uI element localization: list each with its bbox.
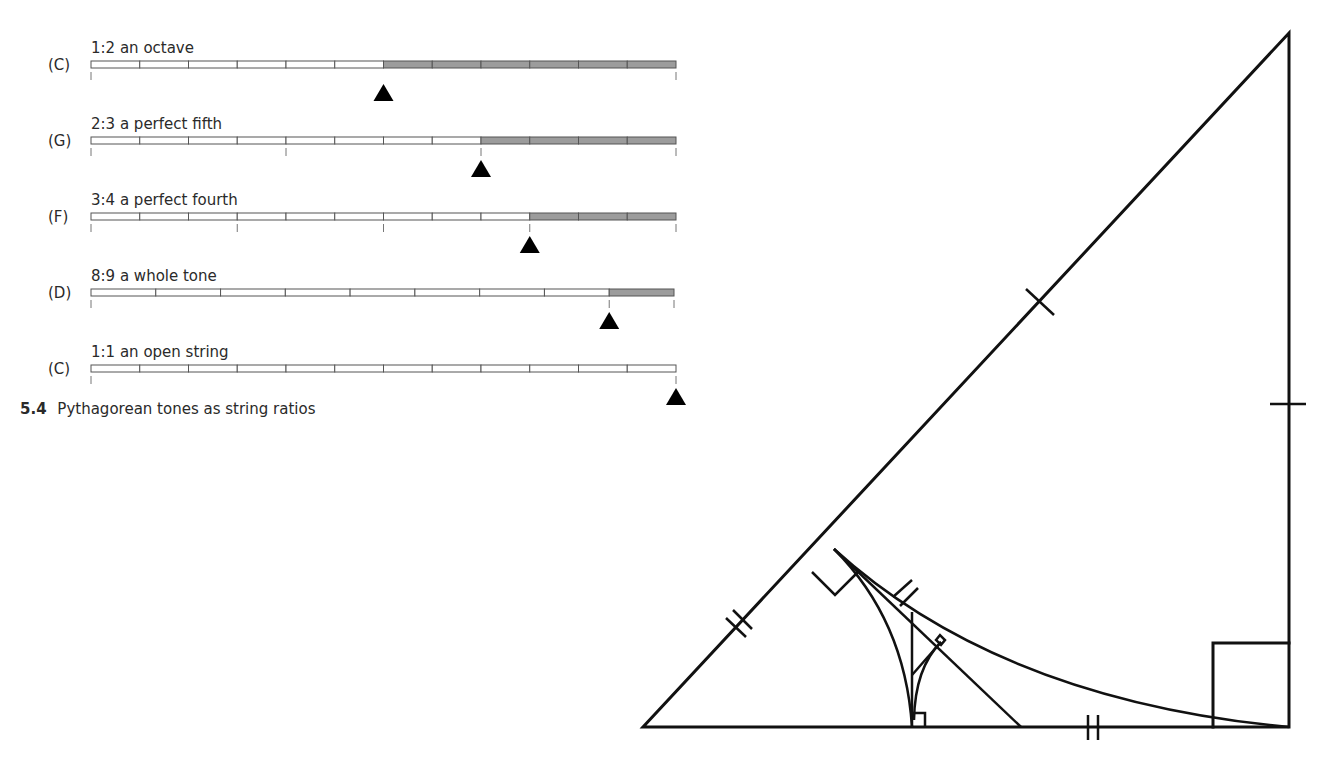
string-segment [189,137,238,144]
note-label: (D) [48,284,71,302]
string-segment [140,61,189,68]
string-segment [481,213,530,220]
string-row: 1:1 an open string(C) [48,343,686,405]
string-segment [189,365,238,372]
ratio-label: 2:3 a perfect fifth [91,115,222,133]
right-angle-marker-d [812,572,858,595]
large-arc [834,549,1289,727]
altitude-line [834,549,1021,727]
string-segment [481,365,530,372]
string-segment [285,289,350,296]
string-segment-shaded [579,61,628,68]
string-segment [432,213,481,220]
bridge-marker-icon [471,160,491,177]
string-segment-shaded [530,61,579,68]
string-row: 3:4 a perfect fourth(F) [48,191,676,253]
string-row: 1:2 an octave(C) [48,39,676,101]
main-triangle [643,33,1289,727]
string-segment [579,365,628,372]
note-label: (F) [48,208,68,226]
string-segment-shaded [627,137,676,144]
string-segment [415,289,480,296]
ratio-label: 8:9 a whole tone [91,267,217,285]
string-segment [91,289,156,296]
right-angle-marker-small [936,635,945,645]
string-segment [237,61,286,68]
bridge-marker-icon [374,84,394,101]
note-label: (C) [48,360,70,378]
ratio-label: 1:2 an octave [91,39,194,57]
string-segment-shaded [579,213,628,220]
string-segment [189,213,238,220]
string-segment-shaded [627,61,676,68]
double-tick-arc [893,580,918,606]
string-segment [544,289,609,296]
string-segment [140,137,189,144]
string-segment-shaded [530,213,579,220]
figure-caption: 5.4 Pythagorean tones as string ratios [20,400,316,418]
string-segment [237,137,286,144]
string-row: 8:9 a whole tone(D) [48,267,674,329]
bridge-marker-icon [666,388,686,405]
string-segment [335,365,384,372]
string-segment [384,137,433,144]
ratio-label: 3:4 a perfect fourth [91,191,238,209]
inner-arc [914,642,941,720]
string-segment [189,61,238,68]
string-segment [384,213,433,220]
string-segment-shaded [579,137,628,144]
string-segment-shaded [432,61,481,68]
small-arc [834,549,912,727]
string-segment [350,289,415,296]
string-segment [530,365,579,372]
string-segment [286,137,335,144]
bridge-marker-icon [520,236,540,253]
string-segment [156,289,221,296]
string-segment [480,289,545,296]
string-segment-shaded [481,137,530,144]
string-row: 2:3 a perfect fifth(G) [48,115,676,177]
string-ratio-diagram: 1:2 an octave(C)2:3 a perfect fifth(G)3:… [48,39,686,405]
string-segment-shaded [530,137,579,144]
string-segment [91,137,140,144]
string-segment [237,365,286,372]
string-segment [432,365,481,372]
string-segment [335,61,384,68]
right-angle-marker-b [1213,643,1289,727]
note-label: (C) [48,56,70,74]
right-triangle-construction [643,33,1306,740]
caption-number: 5.4 [20,400,47,418]
string-segment [221,289,286,296]
string-segment-shaded [627,213,676,220]
string-segment [286,213,335,220]
string-segment [627,365,676,372]
string-segment [384,365,433,372]
string-segment [91,213,140,220]
string-segment [432,137,481,144]
figure-canvas: 1:2 an octave(C)2:3 a perfect fifth(G)3:… [0,0,1331,771]
ratio-label: 1:1 an open string [91,343,229,361]
string-segment-shaded [609,289,674,296]
string-segment [286,61,335,68]
string-segment-shaded [384,61,433,68]
note-label: (G) [48,132,71,150]
string-segment [91,365,140,372]
string-segment [140,213,189,220]
string-segment [91,61,140,68]
string-segment [335,213,384,220]
string-segment [237,213,286,220]
caption-text: Pythagorean tones as string ratios [57,400,315,418]
bridge-marker-icon [599,312,619,329]
string-segment [335,137,384,144]
string-segment [286,365,335,372]
string-segment-shaded [481,61,530,68]
string-segment [140,365,189,372]
